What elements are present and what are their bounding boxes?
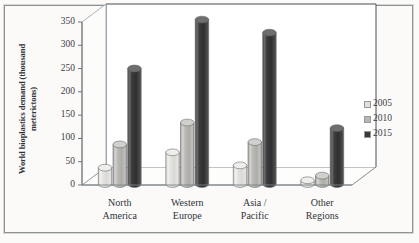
legend-swatch-icon bbox=[364, 101, 371, 108]
bar-2015-western-europe bbox=[195, 16, 209, 187]
legend-label: 2005 bbox=[373, 96, 392, 110]
category-label-line: Other bbox=[280, 197, 364, 210]
legend-item-2005[interactable]: 2005 bbox=[364, 96, 416, 111]
bar-2005-western-europe bbox=[166, 149, 180, 187]
bar-2015-north-america bbox=[128, 65, 142, 187]
category-label-line: Regions bbox=[280, 210, 364, 223]
plot-left-wall bbox=[82, 4, 106, 185]
chart-legend: 200520102015 bbox=[364, 96, 416, 141]
bar-2010-north-america bbox=[113, 141, 127, 187]
bar-2005-asia-pacific bbox=[233, 162, 247, 187]
bar-2005-other-regions bbox=[301, 177, 315, 188]
chart-figure: World bioplastics demand (thousand meter… bbox=[0, 0, 419, 243]
legend-item-2015[interactable]: 2015 bbox=[364, 126, 416, 141]
bar-2015-asia-pacific bbox=[263, 29, 277, 187]
x-axis-category-labels: NorthAmericaWesternEuropeAsia /PacificOt… bbox=[0, 197, 419, 237]
legend-item-2010[interactable]: 2010 bbox=[364, 111, 416, 126]
legend-swatch-icon bbox=[364, 116, 371, 123]
bar-2010-asia-pacific bbox=[248, 139, 262, 188]
legend-label: 2015 bbox=[373, 126, 392, 140]
x-category-label-3: OtherRegions bbox=[280, 197, 364, 222]
legend-swatch-icon bbox=[364, 131, 371, 138]
bar-2015-other-regions bbox=[330, 125, 344, 188]
legend-label: 2010 bbox=[373, 111, 392, 125]
bar-2005-north-america bbox=[98, 164, 112, 187]
bar-2010-western-europe bbox=[181, 119, 195, 187]
